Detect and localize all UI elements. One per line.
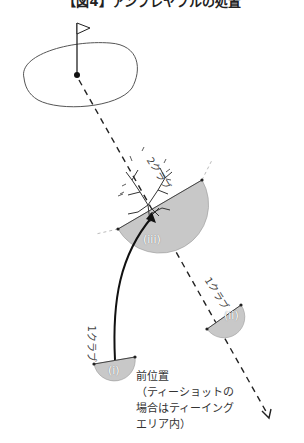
note-line-3: 場合はティーイング <box>136 401 234 417</box>
hole-icon <box>74 72 80 78</box>
previous-position-note: 前位置 （ティーショットの 場合はティーイング エリア内） <box>136 369 234 433</box>
putting-green <box>24 43 138 107</box>
flag-icon <box>77 23 90 75</box>
unplayable-ball-diagram: 【図4】アンプレヤブルの処置 <box>0 0 304 443</box>
note-line-2: （ティーショットの <box>136 385 234 401</box>
note-line-1: 前位置 <box>136 369 234 385</box>
option-iii-label: (iii) <box>143 233 161 246</box>
option-ii-label: (ii) <box>224 309 239 322</box>
note-line-4: エリア内） <box>136 417 234 433</box>
arrow-head <box>262 409 271 418</box>
option-i-label: (i) <box>108 364 120 377</box>
one-club-length-label-left: 1クラブ <box>85 326 100 362</box>
